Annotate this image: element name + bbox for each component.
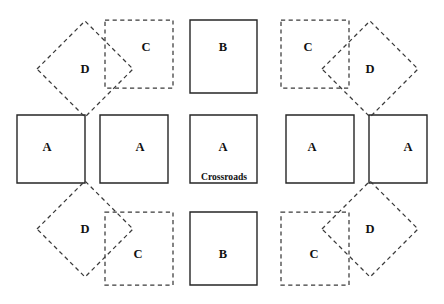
center-square-b-top [190, 20, 257, 93]
right-diamond-d-bottom-label: D [365, 222, 374, 236]
left-diamond-d-bottom-label: D [80, 222, 89, 236]
right-square-a-east-label: A [403, 140, 412, 154]
left-square-c-top [105, 20, 173, 88]
left-square-a-east [100, 115, 168, 183]
caption-layer: Crossroads [201, 171, 247, 182]
left-group [17, 20, 173, 285]
left-square-c-top-label: C [141, 40, 150, 54]
crossroads-tiling-diagram: AADDCCBABAADDCC Crossroads [0, 0, 444, 304]
center-group-labels: BAB [218, 40, 227, 261]
center-square-b-top-label: B [219, 40, 227, 54]
right-square-c-top [281, 20, 349, 88]
left-square-a-west-label: A [42, 140, 51, 154]
diagram-canvas: AADDCCBABAADDCC Crossroads [0, 0, 444, 304]
center-square-b-bottom-label: B [219, 247, 227, 261]
left-square-c-bottom-label: C [133, 247, 142, 261]
left-group-labels: AADDCC [42, 40, 150, 261]
right-square-a-west-label: A [307, 140, 316, 154]
right-square-c-bottom-label: C [309, 247, 318, 261]
left-square-a-east-label: A [135, 140, 144, 154]
label-layer: AADDCCBABAADDCC [42, 40, 412, 261]
right-square-c-top-label: C [303, 40, 312, 54]
crossroads-caption: Crossroads [201, 171, 247, 182]
right-square-a-east [369, 115, 427, 183]
center-square-a-crossroads-label: A [218, 140, 227, 154]
right-square-a-west [286, 115, 354, 183]
right-group-labels: AADDCC [303, 40, 412, 261]
left-diamond-d-top-label: D [80, 62, 89, 76]
right-diamond-d-top-label: D [365, 62, 374, 76]
